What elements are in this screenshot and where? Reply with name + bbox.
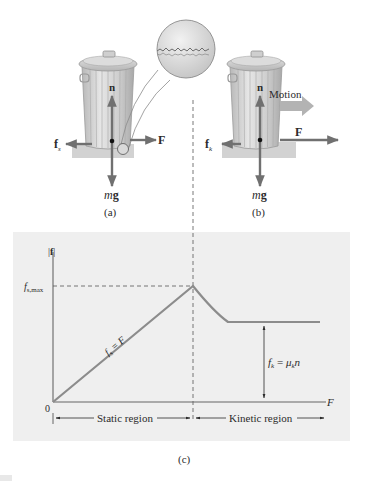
x-axis-label: F — [326, 396, 334, 408]
caption-b: (b) — [252, 206, 265, 219]
kinetic-friction-label-b: fk — [205, 137, 213, 153]
center-of-mass-b — [258, 138, 263, 143]
trash-can-a-icon — [79, 51, 137, 149]
applied-label-a: F — [158, 133, 165, 147]
panel-a: n F fs mg (a) — [54, 20, 215, 219]
panel-c-graph: |f| F 0 fs,max fs = F fk = μkn Static re… — [13, 100, 350, 466]
motion-label: Motion — [269, 88, 302, 100]
graph-background — [13, 232, 350, 441]
normal-label-b: n — [257, 81, 263, 93]
trash-can-b-icon — [227, 51, 285, 149]
static-friction-label-a: fs — [54, 137, 61, 153]
corner-artifact — [0, 475, 12, 481]
origin-label: 0 — [45, 403, 50, 414]
applied-label-b: F — [295, 125, 302, 139]
weight-label-a: mg — [104, 188, 119, 202]
static-region-label: Static region — [97, 412, 153, 424]
friction-figure: n F fs mg (a) Motion — [0, 0, 367, 481]
kinetic-region-label: Kinetic region — [229, 412, 293, 424]
center-of-mass-a — [110, 139, 115, 144]
y-axis-label: |f| — [48, 246, 55, 257]
panel-b: Motion n F fk mg (b) — [205, 51, 338, 219]
caption-c: (c) — [178, 453, 191, 466]
weight-label-b: mg — [252, 188, 267, 202]
normal-label-a: n — [109, 81, 115, 93]
caption-a: (a) — [104, 206, 117, 219]
